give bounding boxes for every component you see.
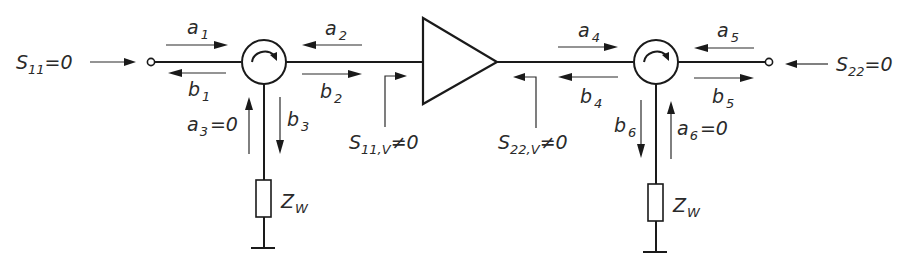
label-b2: b2: [320, 80, 342, 106]
label-a5: a5: [717, 19, 739, 45]
label-b6: b6: [614, 114, 636, 140]
s22-sub: 22: [848, 64, 865, 79]
left-incident-arrow: [90, 58, 136, 66]
circulator-amplifier-diagram: S11=0 a1 b1 a2 b2 S11,V≠0: [0, 0, 912, 267]
right-circulator: [634, 40, 678, 84]
label-a2: a2: [325, 17, 347, 43]
arrow-b1: [168, 69, 226, 77]
resistor-zw-left: [256, 180, 271, 217]
amplifier-triangle: [423, 18, 497, 104]
arrow-b3: [276, 97, 284, 154]
label-zw-left: ZW: [280, 190, 309, 216]
arrow-b5: [694, 74, 754, 82]
s11-value: =0: [45, 51, 73, 73]
arrow-s11v: [385, 72, 407, 127]
label-zw-right: ZW: [672, 194, 701, 220]
resistor-zw-right: [648, 184, 663, 221]
arrow-a2: [302, 41, 362, 49]
arrow-b6: [637, 100, 645, 158]
left-terminal: [147, 58, 154, 65]
left-port-label: S11=0: [16, 51, 73, 77]
left-circulator: [242, 40, 286, 84]
arrow-a4: [558, 43, 618, 51]
right-port-label: S22=0: [836, 53, 893, 79]
label-a3: a3=0: [187, 113, 238, 139]
label-a6: a6=0: [677, 117, 728, 143]
label-s11v: S11,V≠0: [349, 131, 419, 157]
arrow-b4: [558, 73, 618, 81]
label-b5: b5: [712, 85, 734, 111]
label-b1: b1: [188, 78, 210, 104]
right-incident-arrow: [785, 60, 828, 68]
s11-sub: 11: [28, 62, 45, 77]
arrow-a5: [694, 44, 754, 52]
arrow-a3: [245, 97, 253, 154]
label-a4: a4: [578, 19, 600, 45]
arrow-a1: [166, 41, 228, 49]
s22-value: =0: [865, 53, 893, 75]
arrow-b2: [302, 70, 362, 78]
label-a1: a1: [187, 16, 209, 42]
label-b3: b3: [287, 108, 309, 134]
s11-main: S: [16, 51, 28, 73]
right-terminal: [765, 58, 772, 65]
label-b4: b4: [580, 85, 602, 111]
s22-main: S: [836, 53, 848, 75]
arrow-a6: [667, 101, 675, 159]
label-s22v: S22,V≠0: [498, 131, 568, 157]
svg-text:S22=0: S22=0: [836, 53, 893, 79]
svg-text:S11=0: S11=0: [16, 51, 73, 77]
arrow-s22v: [513, 73, 536, 128]
